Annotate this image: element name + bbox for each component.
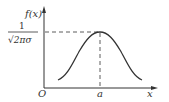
peak-value-numerator: 1 [19, 21, 25, 31]
normal-distribution-diagram: f(x) 1 √2πσ O a x [0, 0, 169, 102]
peak-x-label: a [97, 88, 103, 99]
peak-value-denominator: √2πσ [8, 35, 32, 45]
x-axis-label: x [147, 88, 153, 99]
y-axis-arrow-icon [42, 6, 46, 13]
origin-label: O [38, 88, 46, 99]
y-axis-label: f(x) [24, 8, 42, 19]
